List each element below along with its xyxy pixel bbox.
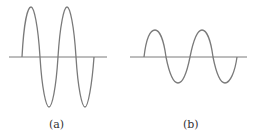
wave-b bbox=[130, 30, 247, 83]
label-b: (b) bbox=[183, 118, 199, 131]
waves-diagram bbox=[0, 0, 257, 138]
wave-a bbox=[9, 7, 107, 107]
label-a: (a) bbox=[49, 118, 64, 131]
